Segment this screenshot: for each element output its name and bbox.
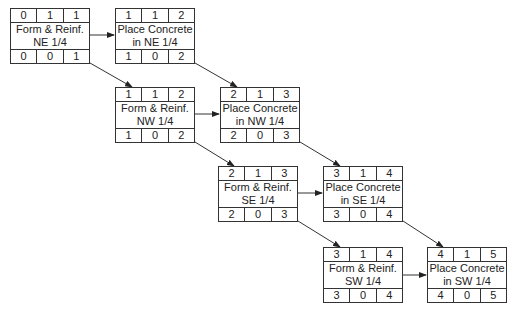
late-start: 1 — [116, 129, 141, 142]
activity-name-line2: NE 1/4 — [33, 36, 67, 49]
early-finish: 3 — [271, 167, 297, 180]
node-place-concrete-se: 314 Place Concretein SE 1/4 304 — [323, 166, 403, 222]
float: 0 — [141, 50, 167, 63]
early-finish: 4 — [376, 167, 402, 180]
late-start: 1 — [116, 50, 141, 63]
duration: 1 — [453, 248, 479, 261]
early-finish: 3 — [273, 88, 299, 101]
late-finish: 1 — [63, 50, 89, 63]
late-finish: 4 — [376, 289, 402, 302]
late-start: 0 — [11, 50, 36, 63]
float: 0 — [349, 289, 375, 302]
float: 0 — [141, 129, 167, 142]
activity-name-line1: Place Concrete — [325, 181, 400, 194]
early-finish: 1 — [63, 9, 89, 22]
duration: 1 — [141, 88, 167, 101]
activity-name-line1: Place Concrete — [222, 102, 297, 115]
early-start: 0 — [11, 9, 36, 22]
late-finish: 5 — [480, 289, 506, 302]
late-finish: 3 — [273, 129, 299, 142]
duration: 1 — [349, 167, 375, 180]
node-place-concrete-sw: 415 Place Concretein SW 1/4 405 — [427, 247, 507, 303]
activity-name-line1: Form & Reinf. — [329, 262, 397, 275]
duration: 1 — [244, 167, 270, 180]
activity-name-line2: SW 1/4 — [345, 275, 381, 288]
late-finish: 2 — [168, 129, 194, 142]
duration: 1 — [246, 88, 272, 101]
node-form-reinf-sw: 314 Form & Reinf.SW 1/4 304 — [323, 247, 403, 303]
activity-name-line2: SE 1/4 — [241, 194, 274, 207]
activity-name-line1: Place Concrete — [117, 23, 192, 36]
node-form-reinf-se: 213 Form & Reinf.SE 1/4 203 — [218, 166, 298, 222]
early-start: 2 — [221, 88, 246, 101]
float: 0 — [453, 289, 479, 302]
late-start: 3 — [324, 208, 349, 221]
late-start: 3 — [324, 289, 349, 302]
late-finish: 2 — [168, 50, 194, 63]
late-finish: 4 — [376, 208, 402, 221]
early-finish: 5 — [480, 248, 506, 261]
activity-name-line1: Form & Reinf. — [16, 23, 84, 36]
activity-name-line1: Form & Reinf. — [121, 102, 189, 115]
duration: 1 — [141, 9, 167, 22]
late-start: 2 — [221, 129, 246, 142]
node-form-reinf-ne: 011 Form & Reinf.NE 1/4 001 — [10, 8, 90, 64]
activity-name-line2: in SE 1/4 — [341, 194, 386, 207]
early-start: 3 — [324, 248, 349, 261]
early-start: 1 — [116, 9, 141, 22]
node-form-reinf-nw: 112 Form & Reinf.NW 1/4 102 — [115, 87, 195, 143]
float: 0 — [349, 208, 375, 221]
early-finish: 2 — [168, 9, 194, 22]
activity-name-line2: in NW 1/4 — [236, 115, 284, 128]
late-finish: 3 — [271, 208, 297, 221]
early-start: 1 — [116, 88, 141, 101]
node-place-concrete-nw: 213 Place Concretein NW 1/4 203 — [220, 87, 300, 143]
activity-name-line2: NW 1/4 — [137, 115, 174, 128]
activity-name-line2: in SW 1/4 — [443, 275, 491, 288]
activity-name-line1: Place Concrete — [429, 262, 504, 275]
early-start: 2 — [219, 167, 244, 180]
activity-name-line2: in NE 1/4 — [132, 36, 177, 49]
node-place-concrete-ne: 112 Place Concretein NE 1/4 102 — [115, 8, 195, 64]
duration: 1 — [349, 248, 375, 261]
early-start: 4 — [428, 248, 453, 261]
late-start: 4 — [428, 289, 453, 302]
duration: 1 — [36, 9, 62, 22]
float: 0 — [244, 208, 270, 221]
late-start: 2 — [219, 208, 244, 221]
activity-name-line1: Form & Reinf. — [224, 181, 292, 194]
early-start: 3 — [324, 167, 349, 180]
float: 0 — [246, 129, 272, 142]
early-finish: 4 — [376, 248, 402, 261]
early-finish: 2 — [168, 88, 194, 101]
float: 0 — [36, 50, 62, 63]
